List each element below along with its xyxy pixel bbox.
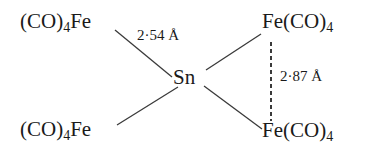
group-top-left-prefix: (CO) bbox=[20, 9, 63, 33]
group-top-right-prefix: Fe(CO) bbox=[262, 9, 326, 33]
bond-bottom-left-fe-sn bbox=[117, 87, 178, 125]
group-top-left-suffix: Fe bbox=[70, 9, 91, 33]
group-top-right: Fe(CO)4 bbox=[262, 11, 333, 32]
group-bottom-right-subscript: 4 bbox=[326, 129, 333, 144]
group-top-left: (CO)4Fe bbox=[20, 11, 91, 32]
bond-bottom-right-fe-sn bbox=[204, 86, 262, 129]
group-top-right-subscript: 4 bbox=[326, 20, 333, 35]
distance-label-fe-fe: 2·87 Å bbox=[280, 69, 322, 84]
bond-top-right-fe-sn bbox=[206, 34, 261, 70]
group-bottom-left: (CO)4Fe bbox=[20, 119, 91, 140]
chemical-structure-diagram: (CO)4Fe Fe(CO)4 (CO)4Fe Fe(CO)4 Sn 2·54 … bbox=[0, 0, 373, 153]
distance-label-fe-sn: 2·54 Å bbox=[137, 28, 179, 43]
central-atom-sn: Sn bbox=[173, 67, 195, 88]
group-bottom-right: Fe(CO)4 bbox=[262, 120, 333, 141]
group-bottom-right-prefix: Fe(CO) bbox=[262, 118, 326, 142]
group-bottom-left-suffix: Fe bbox=[70, 117, 91, 141]
group-bottom-left-prefix: (CO) bbox=[20, 117, 63, 141]
